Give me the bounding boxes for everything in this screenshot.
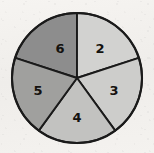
- pie-label-5: 5: [33, 83, 42, 98]
- pie-label-2: 2: [95, 41, 104, 56]
- pie-chart: 6 2 3 4 5: [0, 0, 154, 153]
- pie-label-4: 4: [72, 110, 81, 125]
- pie-label-3: 3: [109, 83, 118, 98]
- pie-label-6: 6: [55, 41, 64, 56]
